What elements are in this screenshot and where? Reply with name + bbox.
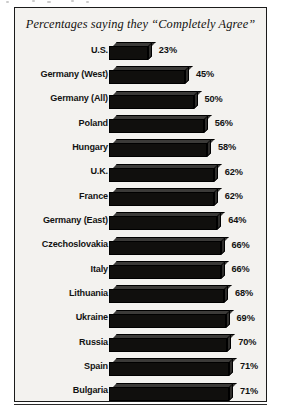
bar-category-label: U.S. (0, 45, 108, 55)
bar-end-cap (229, 359, 233, 377)
bar-category-label: Poland (0, 118, 108, 128)
bar-top-bevel (113, 66, 193, 70)
bar-category-label: U.K. (0, 166, 108, 176)
bar-value-label: 71% (240, 361, 258, 371)
bar-top-bevel (113, 237, 228, 241)
bar (109, 42, 152, 60)
bar-value-label: 62% (225, 191, 243, 201)
bar (109, 310, 230, 328)
bar-category-label: Ukraine (0, 312, 108, 322)
bar-row: Italy66% (15, 258, 268, 282)
chart-title: Percentages saying they “Completely Agre… (15, 17, 266, 32)
bar-value-label: 50% (205, 94, 223, 104)
bar-top-bevel (113, 310, 233, 314)
bar-face (109, 241, 221, 255)
bar-value-label: 56% (215, 118, 233, 128)
bar-value-label: 45% (196, 69, 214, 79)
bar-row: Germany (All)50% (15, 88, 268, 112)
bar-row: Poland56% (15, 112, 268, 136)
bar-row: U.K.62% (15, 161, 268, 185)
bar-category-label: Italy (0, 264, 108, 274)
bar-row: Germany (West)45% (15, 63, 268, 87)
bar (109, 285, 228, 303)
bar-face (109, 143, 207, 157)
bar-value-label: 66% (232, 264, 250, 274)
bar-category-label: Lithuania (0, 288, 108, 298)
bar-end-cap (185, 66, 189, 84)
bar-value-label: 62% (225, 167, 243, 177)
bar-top-bevel (113, 115, 211, 119)
bar-row: Bulgaria71% (15, 380, 268, 404)
bar-value-label: 71% (240, 386, 258, 396)
bar-row: Germany (East)64% (15, 209, 268, 233)
bar-value-label: 68% (235, 288, 253, 298)
bar-end-cap (148, 42, 152, 60)
bar-top-bevel (113, 212, 225, 216)
bar-face (109, 216, 217, 230)
bar-top-bevel (113, 358, 237, 362)
bar-face (109, 46, 148, 60)
bar-face (109, 314, 226, 328)
bar (109, 334, 231, 352)
bar-value-label: 66% (232, 240, 250, 250)
bar-category-label: Germany (West) (0, 69, 108, 79)
scan-speck (6, 1, 9, 3)
bar (109, 358, 233, 376)
bar-face (109, 192, 214, 206)
bar-value-label: 70% (238, 337, 256, 347)
bar-row: France62% (15, 185, 268, 209)
bar-category-label: France (0, 191, 108, 201)
bar-face (109, 265, 221, 279)
bar-top-bevel (113, 91, 201, 95)
bar (109, 115, 208, 133)
bar (109, 383, 233, 401)
bar-row: Ukraine69% (15, 307, 268, 331)
bar-face (109, 168, 214, 182)
bar-top-bevel (113, 285, 232, 289)
bar-row: U.S.23% (15, 39, 268, 63)
bar (109, 164, 218, 182)
bar-category-label: Bulgaria (0, 385, 108, 395)
bar-category-label: Czechoslovakia (0, 239, 108, 249)
bar-category-label: Hungary (0, 142, 108, 152)
bar-row: Lithuania68% (15, 282, 268, 306)
bar-rows: U.S.23%Germany (West)45%Germany (All)50%… (15, 39, 268, 404)
bar-face (109, 70, 185, 84)
bar-end-cap (221, 261, 225, 279)
bar-end-cap (214, 188, 218, 206)
bar-end-cap (227, 334, 231, 352)
bar-top-bevel (113, 164, 222, 168)
bar-end-cap (217, 213, 221, 231)
bar-face (109, 338, 227, 352)
bar-end-cap (214, 164, 218, 182)
bar-top-bevel (113, 261, 228, 265)
bar-value-label: 58% (218, 142, 236, 152)
scan-artifacts (0, 0, 283, 7)
bar-value-label: 64% (228, 215, 246, 225)
bar-category-label: Russia (0, 337, 108, 347)
bar-row: Spain71% (15, 355, 268, 379)
bar-end-cap (229, 383, 233, 401)
bar-top-bevel (113, 188, 222, 192)
bar-end-cap (221, 237, 225, 255)
bar-end-cap (207, 140, 211, 158)
bar (109, 91, 198, 109)
scan-speck (86, 1, 89, 3)
bar-face (109, 362, 229, 376)
bar-top-bevel (113, 139, 215, 143)
scan-speck (32, 0, 35, 2)
bar-category-label: Spain (0, 361, 108, 371)
bar-end-cap (224, 286, 228, 304)
scan-speck (47, 1, 51, 3)
bar (109, 139, 211, 157)
bar-face (109, 387, 229, 401)
bar-face (109, 289, 224, 303)
bar-end-cap (226, 310, 230, 328)
bar (109, 237, 225, 255)
bar-face (109, 95, 194, 109)
bar-row: Hungary58% (15, 136, 268, 160)
bar-category-label: Germany (East) (0, 215, 108, 225)
bar (109, 188, 218, 206)
bar-value-label: 23% (159, 45, 177, 55)
bar-row: Russia70% (15, 331, 268, 355)
